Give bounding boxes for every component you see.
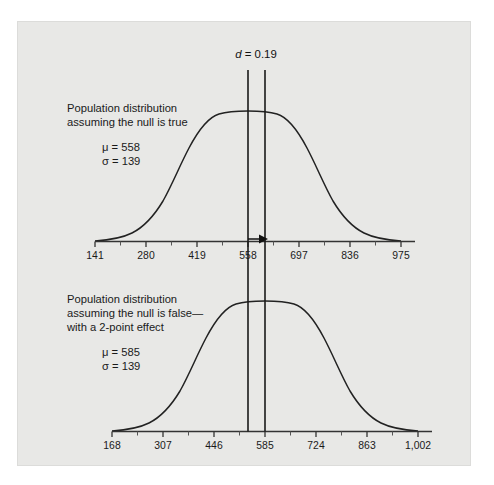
upper-tick-label-4: 697 — [290, 250, 308, 261]
lower-tick-label-2: 446 — [205, 440, 223, 451]
lower-tick-label-1: 307 — [154, 440, 172, 451]
lower-mu-label: μ = 585 — [102, 346, 140, 358]
upper-caption-line2: assuming the null is true — [67, 116, 188, 128]
upper-caption-line1: Population distribution — [67, 102, 177, 114]
upper-tick-label-0: 141 — [86, 250, 104, 261]
upper-mu-label: μ = 558 — [102, 141, 140, 153]
figure-panel: Population distribution assuming the nul… — [18, 22, 470, 465]
effect-size-value: = 0.19 — [245, 48, 277, 60]
upper-tick-label-5: 836 — [341, 250, 359, 261]
lower-tick-label-4: 724 — [307, 440, 325, 451]
lower-tick-label-6: 1,002 — [405, 440, 431, 451]
effect-size-label: d = 0.19 — [235, 48, 277, 60]
upper-tick-label-2: 419 — [188, 250, 206, 261]
lower-tick-label-3: 585 — [256, 440, 274, 451]
lower-caption-line1: Population distribution — [67, 293, 177, 305]
lower-tick-label-5: 863 — [358, 440, 376, 451]
distribution-chart: Population distribution assuming the nul… — [18, 22, 470, 465]
upper-tick-label-1: 280 — [137, 250, 155, 261]
lower-tick-label-0: 168 — [103, 440, 121, 451]
lower-sigma-label: σ = 139 — [102, 360, 140, 372]
lower-caption-line3: with a 2-point effect — [66, 321, 165, 333]
upper-sigma-label: σ = 139 — [102, 155, 140, 167]
upper-tick-label-6: 975 — [392, 250, 410, 261]
lower-caption-line2: assuming the null is false— — [67, 307, 204, 319]
